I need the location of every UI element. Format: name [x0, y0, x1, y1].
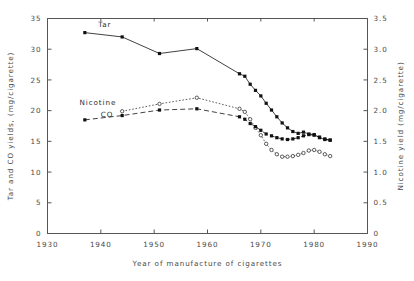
data-point	[83, 118, 86, 121]
data-point	[158, 102, 161, 105]
y-axis-left-tick-label: 25	[31, 76, 42, 85]
data-point	[195, 47, 198, 50]
data-point	[318, 135, 321, 138]
y-axis-right-tick-label: 1.0	[374, 168, 388, 177]
series-label-tar: Tar	[97, 20, 111, 29]
data-point	[296, 153, 299, 156]
data-point	[323, 137, 326, 140]
x-axis-tick-label: 1990	[357, 240, 379, 249]
y-axis-left-tick-label: 35	[31, 14, 42, 23]
data-point	[243, 118, 246, 121]
y-axis-left-title: Tar and CO yields, (mg/cigarette)	[6, 52, 15, 202]
data-point	[297, 136, 300, 139]
data-point	[249, 122, 252, 125]
x-axis-tick-label: 1980	[303, 240, 325, 249]
data-point	[265, 132, 268, 135]
data-point	[312, 148, 315, 151]
data-point	[307, 149, 310, 152]
data-point	[281, 137, 284, 140]
data-point	[254, 125, 257, 128]
data-point	[83, 31, 86, 34]
data-point	[238, 72, 241, 75]
data-point	[280, 155, 283, 158]
data-point	[275, 115, 278, 118]
data-point	[286, 155, 289, 158]
y-axis-right-tick-label: 2.0	[374, 106, 388, 115]
data-point	[265, 102, 268, 105]
y-axis-left-tick-label: 5	[36, 198, 41, 207]
y-axis-left-tick-label: 20	[31, 106, 42, 115]
data-point	[238, 107, 241, 110]
data-point	[302, 134, 305, 137]
data-point	[318, 150, 321, 153]
x-axis-tick-label: 1940	[90, 240, 112, 249]
y-axis-left-tick-label: 0	[36, 229, 41, 238]
y-axis-right-tick-label: 2.5	[374, 76, 388, 85]
data-point	[323, 153, 326, 156]
y-axis-left-tick-label: 30	[31, 45, 42, 54]
data-point	[329, 139, 332, 142]
data-point	[195, 96, 198, 99]
data-point	[270, 108, 273, 111]
data-point	[243, 110, 246, 113]
chart-container: 05101520253035 00.51.01.52.02.53.03.5 19…	[0, 0, 414, 281]
y-axis-right-tick-label: 0	[374, 229, 379, 238]
data-point	[328, 154, 331, 157]
data-point	[281, 121, 284, 124]
data-point	[243, 75, 246, 78]
data-point	[291, 130, 294, 133]
data-point	[291, 154, 294, 157]
data-point	[195, 107, 198, 110]
data-point	[254, 89, 257, 92]
y-axis-right-tick-label: 1.5	[374, 137, 388, 146]
data-point	[259, 134, 262, 137]
data-point	[270, 148, 273, 151]
data-point	[158, 52, 161, 55]
data-point	[291, 137, 294, 140]
data-point	[249, 83, 252, 86]
series-label-nicotine: Nicotine	[80, 98, 117, 107]
y-axis-right-tick-label: 3.0	[374, 45, 388, 54]
data-point	[121, 35, 124, 38]
data-point	[307, 133, 310, 136]
x-axis-title: Year of manufacture of cigarettes	[132, 259, 283, 268]
data-point	[297, 132, 300, 135]
data-point	[275, 136, 278, 139]
data-point	[120, 110, 123, 113]
data-point	[248, 118, 251, 121]
data-point	[238, 115, 241, 118]
data-point	[286, 138, 289, 141]
x-axis-tick-label: 1970	[250, 240, 272, 249]
x-axis-tick-label: 1950	[143, 240, 165, 249]
line-chart: 05101520253035 00.51.01.52.02.53.03.5 19…	[0, 0, 414, 281]
series-label-co: CO	[101, 110, 113, 119]
data-point	[259, 94, 262, 97]
data-point	[259, 129, 262, 132]
data-point	[302, 151, 305, 154]
y-axis-right-tick-label: 0.5	[374, 198, 388, 207]
data-point	[121, 114, 124, 117]
x-axis-tick-label: 1960	[197, 240, 219, 249]
data-point	[270, 134, 273, 137]
data-point	[275, 153, 278, 156]
y-axis-right-tick-label: 3.5	[374, 14, 388, 23]
data-point	[286, 126, 289, 129]
y-axis-left-tick-label: 15	[31, 137, 42, 146]
data-point	[302, 131, 305, 134]
x-axis-tick-label: 1930	[37, 240, 59, 249]
data-point	[313, 134, 316, 137]
data-point	[158, 108, 161, 111]
data-point	[264, 142, 267, 145]
y-axis-right-title: Nicotine yield (mg/cigarette)	[396, 61, 405, 190]
y-axis-left-tick-label: 10	[31, 168, 42, 177]
